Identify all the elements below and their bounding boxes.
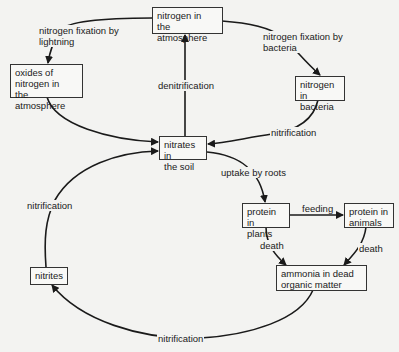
node-nitrites: nitrites	[30, 267, 68, 285]
label-death-plants: death	[259, 240, 285, 251]
label-nitrogen-fixation-lightning: nitrogen fixation by lightning	[38, 25, 120, 47]
node-protein-plants: protein in plants	[242, 203, 290, 228]
label-uptake-by-roots: uptake by roots	[220, 167, 287, 178]
nitrogen-cycle-diagram: nitrogen in the atmosphere oxides of nit…	[0, 0, 399, 352]
node-nitrates-soil: nitrates in the soil	[159, 136, 207, 160]
label-denitrification: denitrification	[157, 80, 215, 91]
label-nitrification-bacteria: nitrification	[270, 127, 317, 138]
node-protein-animals: protein in animals	[344, 203, 394, 228]
label-feeding: feeding	[301, 203, 334, 214]
arrow-ammonia-nitrites	[52, 285, 313, 338]
label-nitrification-ammonia: nitrification	[157, 333, 204, 344]
node-oxides-of-nitrogen: oxides of nitrogen in the atmosphere	[10, 64, 83, 98]
node-ammonia: ammonia in dead organic matter	[276, 265, 367, 291]
label-nitrogen-fixation-bacteria: nitrogen fixation by bacteria	[262, 31, 344, 53]
label-death-animals: death	[358, 243, 384, 254]
label-nitrification-nitrites: nitrification	[26, 200, 73, 211]
node-nitrogen-bacteria: nitrogen in bacteria	[295, 76, 345, 101]
node-nitrogen-atmosphere: nitrogen in the atmosphere	[152, 7, 223, 34]
